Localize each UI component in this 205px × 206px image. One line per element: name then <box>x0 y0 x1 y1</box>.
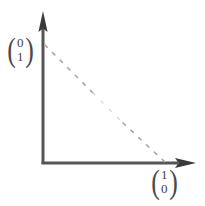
y-vector-components: 0 1 <box>17 36 24 64</box>
dashed-segment-upper <box>45 45 93 93</box>
y-vector-bottom-component: 1 <box>17 50 24 64</box>
dashed-segment-lower <box>123 123 165 162</box>
close-paren-glyph: ) <box>169 169 178 196</box>
y-axis-vector-label: ( 0 1 ) <box>6 36 35 64</box>
open-paren-glyph: ( <box>7 37 16 64</box>
close-paren-glyph: ) <box>25 37 34 64</box>
dashed-segment-middle <box>93 93 123 123</box>
x-vector-components: 1 0 <box>161 168 168 196</box>
x-vector-top-component: 1 <box>161 168 168 182</box>
open-paren-glyph: ( <box>151 169 160 196</box>
x-vector-bottom-component: 0 <box>161 182 168 196</box>
y-vector-top-component: 0 <box>17 36 24 50</box>
x-axis-vector-label: ( 1 0 ) <box>150 168 179 196</box>
x-axis-arrowhead-icon <box>175 158 196 168</box>
vector-diagram: ( 0 1 ) ( 1 0 ) <box>0 0 205 206</box>
